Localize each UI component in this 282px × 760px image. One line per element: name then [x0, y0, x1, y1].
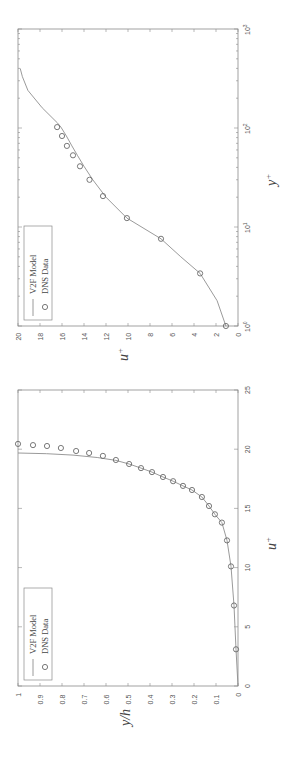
tick-label-uplus: 20: [244, 445, 251, 453]
tick-label-yplus: 102: [242, 123, 251, 134]
plot-bottom-yh-vs-uplus: 00.10.20.30.40.50.60.70.80.910510152025 …: [15, 386, 280, 728]
tick-label-yh: 1: [15, 693, 22, 697]
top-axis-label-uplus: u+: [115, 348, 131, 361]
tick-label-yh: 0.4: [147, 695, 154, 705]
dns-data-point: [87, 450, 92, 455]
bottom-axis-label-yh: y/h: [118, 709, 133, 728]
dns-data-point: [64, 143, 69, 148]
tick-label-yh: 0: [235, 693, 242, 697]
tick-label-uplus: 5: [244, 625, 251, 629]
tick-label-uplus: 15: [244, 505, 251, 513]
figure: 02468101214161820100101102103 V2F Model …: [0, 0, 282, 760]
tick-label-uplus: 12: [103, 333, 110, 341]
bottom-legend: V2F Model DNS Data: [24, 588, 52, 680]
tick-label-yh: 0.6: [103, 695, 110, 705]
top-legend-label-model: V2F Model: [28, 254, 38, 294]
dns-data-point: [77, 164, 82, 169]
dns-data-point: [59, 133, 64, 138]
top-legend-label-dns: DNS Data: [40, 259, 50, 294]
dns-data-point: [100, 453, 105, 458]
tick-label-yplus: 103: [242, 24, 251, 35]
bottom-legend-label-dns: DNS Data: [40, 619, 50, 654]
tick-label-yh: 0.8: [59, 695, 66, 705]
tick-label-uplus: 16: [59, 333, 66, 341]
tick-label-yh: 0.7: [81, 695, 88, 705]
tick-label-yh: 0.3: [169, 695, 176, 705]
dns-data-point: [58, 445, 63, 450]
tick-label-uplus: 18: [37, 333, 44, 341]
bottom-legend-label-model: V2F Model: [28, 614, 38, 654]
tick-label-yh: 0.5: [125, 695, 132, 705]
dns-data-point: [87, 177, 92, 182]
dns-data-point: [30, 443, 35, 448]
tick-label-uplus: 8: [147, 333, 154, 337]
tick-label-uplus: 6: [169, 333, 176, 337]
top-axis-label-yplus: y+: [263, 174, 279, 188]
dns-data-point: [44, 443, 49, 448]
tick-label-yh: 0.9: [37, 695, 44, 705]
tick-label-uplus: 0: [244, 684, 251, 688]
tick-label-uplus: 25: [244, 386, 251, 394]
dns-data-point: [55, 125, 60, 130]
tick-label-yh: 0.1: [213, 695, 220, 705]
tick-label-uplus: 20: [15, 333, 22, 341]
bottom-axis-label-uplus: u+: [263, 537, 279, 550]
tick-label-yplus: 100: [242, 321, 251, 332]
tick-label-yh: 0.2: [191, 695, 198, 705]
tick-label-yplus: 101: [242, 222, 251, 233]
tick-label-uplus: 4: [191, 333, 198, 337]
tick-label-uplus: 0: [235, 333, 242, 337]
top-legend: V2F Model DNS Data: [24, 226, 52, 320]
tick-label-uplus: 10: [244, 564, 251, 572]
dns-data-point: [74, 448, 79, 453]
dns-data-point: [70, 153, 75, 158]
plot-top-uplus-vs-yplus: 02468101214161820100101102103 V2F Model …: [15, 24, 280, 361]
tick-label-uplus: 10: [125, 333, 132, 341]
tick-label-uplus: 14: [81, 333, 88, 341]
tick-label-uplus: 2: [213, 333, 220, 337]
